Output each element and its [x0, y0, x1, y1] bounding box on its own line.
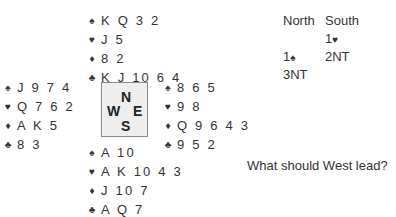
bidding-header-north: North — [283, 12, 315, 30]
bid-south-1: 1♥ — [325, 30, 338, 49]
bid-north-1: 1♠ — [283, 48, 296, 67]
club-icon: ♣ — [87, 200, 97, 217]
heart-icon: ♥ — [332, 34, 338, 45]
bidding-header-south: South — [325, 12, 359, 30]
question-text: What should West lead? — [247, 158, 388, 173]
heart-icon: ♥ — [163, 97, 173, 116]
compass-east: E — [133, 103, 142, 119]
diamond-icon: ♦ — [87, 181, 97, 200]
diamond-icon: ♦ — [87, 49, 97, 68]
spade-icon: ♠ — [290, 52, 295, 63]
heart-icon: ♥ — [87, 162, 97, 181]
diamond-icon: ♦ — [163, 116, 173, 135]
spade-icon: ♠ — [87, 143, 97, 162]
bid-south-2: 2NT — [325, 48, 350, 66]
spade-icon: ♠ — [163, 78, 173, 97]
club-icon: ♣ — [87, 68, 97, 87]
spade-icon: ♠ — [3, 78, 13, 97]
heart-icon: ♥ — [3, 97, 13, 116]
diamond-icon: ♦ — [3, 116, 13, 135]
heart-icon: ♥ — [87, 30, 97, 49]
compass-west: W — [107, 103, 120, 119]
club-icon: ♣ — [3, 135, 13, 154]
compass-north: N — [121, 89, 131, 105]
bid-north-2: 3NT — [283, 66, 308, 84]
compass-south: S — [121, 118, 130, 134]
spade-icon: ♠ — [87, 11, 97, 30]
compass-box: N W E S — [101, 82, 148, 137]
club-icon: ♣ — [163, 135, 173, 154]
